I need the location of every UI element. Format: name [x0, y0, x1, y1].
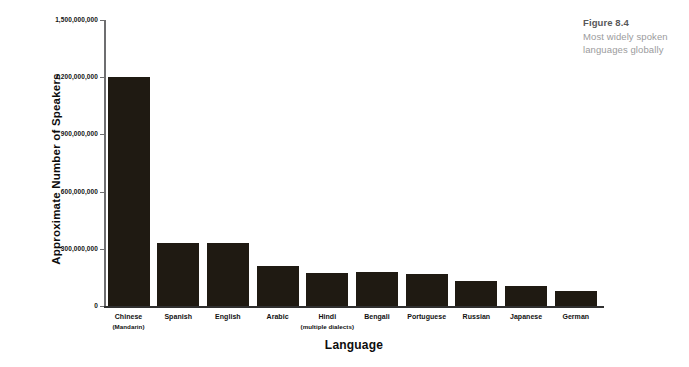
y-axis-tick [100, 77, 104, 78]
category-label-main: Arabic [267, 313, 289, 320]
y-axis-tick-label: 300,000,000 [2, 245, 98, 252]
y-axis-tick [100, 134, 104, 135]
x-axis-line [104, 306, 604, 308]
bar [555, 291, 597, 306]
x-axis-title: Language [104, 338, 604, 352]
y-axis-tick [100, 306, 104, 307]
category-label-main: German [562, 313, 589, 320]
y-axis-tick-label: 1,500,000,000 [2, 16, 98, 23]
category-label-main: Hindi [318, 313, 336, 320]
y-axis-tick [100, 192, 104, 193]
y-axis-tick [100, 20, 104, 21]
bar [455, 281, 497, 306]
y-axis-tick-label: 0 [2, 302, 98, 309]
bar [108, 77, 150, 306]
y-axis-line [104, 20, 106, 306]
bar [505, 286, 547, 306]
bar [406, 274, 448, 306]
y-axis-tick-label: 1,200,000,000 [2, 73, 98, 80]
bar [306, 273, 348, 306]
bar [356, 272, 398, 306]
plot-area [104, 20, 604, 306]
bar [157, 243, 199, 306]
y-axis-tick-label: 600,000,000 [2, 188, 98, 195]
y-axis-title: Approximate Number of Speakers [50, 44, 62, 294]
bar [257, 266, 299, 306]
figure-container: Figure 8.4 Most widely spoken languages … [0, 0, 689, 367]
x-axis-category-label: German [536, 312, 616, 322]
bar [207, 243, 249, 306]
category-label-sub: (Mandarin) [89, 322, 169, 332]
category-label-sub: (multiple dialects) [287, 322, 367, 332]
y-axis-tick-label: 900,000,000 [2, 130, 98, 137]
y-axis-tick [100, 249, 104, 250]
